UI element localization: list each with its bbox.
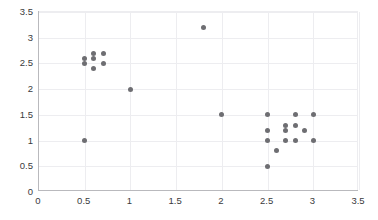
scatter-chart: 00.511.522.533.5 00.511.522.533.5 [0, 0, 378, 220]
x-axis-tick-label: 0.5 [77, 196, 90, 206]
gridline-horizontal [39, 12, 357, 13]
y-axis-tick-label: 2 [0, 83, 33, 94]
gridline-horizontal [39, 115, 357, 116]
data-point [311, 138, 316, 143]
data-point [82, 138, 87, 143]
data-point [293, 138, 298, 143]
data-point [91, 51, 96, 56]
y-axis-tick-label: 1 [0, 134, 33, 145]
data-point [91, 56, 96, 61]
data-point [283, 138, 288, 143]
x-axis-line [38, 190, 358, 191]
x-axis-tick-label: 2 [218, 196, 223, 206]
data-point [265, 128, 270, 133]
gridline-vertical [359, 12, 360, 190]
x-axis-tick-label: 2.5 [260, 196, 273, 206]
data-point [265, 112, 270, 117]
x-axis-tick-label: 1.5 [169, 196, 182, 206]
data-point [101, 61, 106, 66]
y-axis-tick-label: 3 [0, 31, 33, 42]
y-axis-tick-label: 0.5 [0, 160, 33, 171]
x-axis-tick-label: 3.5 [351, 196, 364, 206]
data-point [274, 148, 279, 153]
data-point [201, 25, 206, 30]
data-point [283, 128, 288, 133]
data-point [302, 128, 307, 133]
gridline-horizontal [39, 89, 357, 90]
gridline-horizontal [39, 38, 357, 39]
y-axis-tick-label: 1.5 [0, 108, 33, 119]
x-axis-tick-label: 3 [310, 196, 315, 206]
y-axis-tick-label: 0 [0, 186, 33, 197]
data-point [265, 138, 270, 143]
data-point [265, 164, 270, 169]
data-point [311, 112, 316, 117]
data-point [101, 51, 106, 56]
gridline-horizontal [39, 166, 357, 167]
data-point [293, 112, 298, 117]
data-point [128, 87, 133, 92]
data-point [219, 112, 224, 117]
plot-area [38, 11, 358, 191]
y-axis-tick-label: 3.5 [0, 6, 33, 17]
data-point [283, 123, 288, 128]
y-axis-tick-label: 2.5 [0, 57, 33, 68]
data-point [82, 61, 87, 66]
y-axis-line [38, 11, 39, 191]
x-axis-tick-label: 0 [35, 196, 40, 206]
data-point [91, 66, 96, 71]
x-axis-tick-label: 1 [127, 196, 132, 206]
data-point [293, 123, 298, 128]
